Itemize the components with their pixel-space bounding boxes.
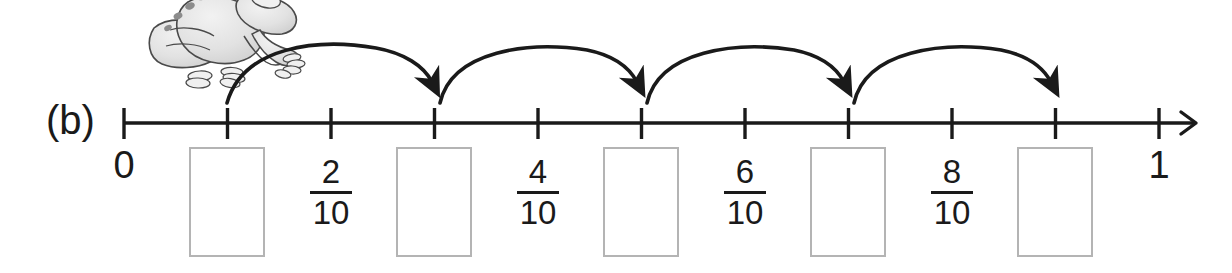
answer-box-2[interactable]: [396, 147, 472, 257]
fraction-label-8-10: 8 10: [917, 155, 987, 229]
jump-arcs: [227, 44, 1051, 103]
axis-line: [124, 112, 1196, 134]
jump-arc-2: [440, 47, 637, 103]
fraction-numerator: 4: [503, 155, 573, 190]
jump-arc-1: [227, 44, 432, 103]
fraction-numerator: 6: [710, 155, 780, 190]
label-one: 1: [1139, 146, 1179, 184]
answer-box-5[interactable]: [1017, 147, 1093, 257]
fraction-numerator: 2: [296, 155, 366, 190]
fraction-numerator: 8: [917, 155, 987, 190]
fraction-label-4-10: 4 10: [503, 155, 573, 229]
jump-arc-4: [854, 47, 1051, 103]
fraction-denominator: 10: [296, 196, 366, 230]
answer-box-3[interactable]: [603, 147, 679, 257]
fraction-denominator: 10: [503, 196, 573, 230]
label-zero: 0: [104, 146, 144, 184]
answer-box-4[interactable]: [810, 147, 886, 257]
fraction-label-2-10: 2 10: [296, 155, 366, 229]
fraction-denominator: 10: [917, 196, 987, 230]
jump-arc-3: [647, 47, 844, 103]
fraction-label-6-10: 6 10: [710, 155, 780, 229]
fraction-denominator: 10: [710, 196, 780, 230]
worksheet-number-line-exercise: (b): [0, 0, 1232, 273]
answer-box-1[interactable]: [189, 147, 265, 257]
